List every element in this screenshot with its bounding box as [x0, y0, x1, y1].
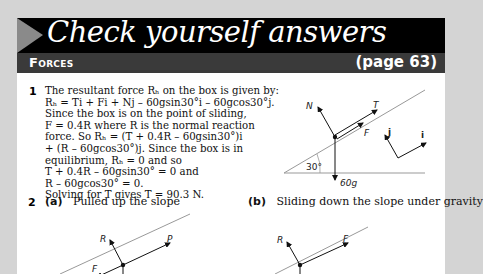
part-a-text: Pulled up the slope: [73, 195, 180, 208]
part-b-heading: (b) Sliding down the slope under gravity: [248, 195, 483, 208]
q2b-force-diagram: R F: [230, 210, 463, 274]
part-a-heading: (a) Pulled up the slope: [45, 195, 180, 208]
q1-line: equilibrium, Rₕ = 0 and so: [45, 155, 279, 167]
part-b-text: Sliding down the slope under gravity: [276, 195, 482, 208]
label-j: j: [387, 127, 391, 137]
label-R: R: [277, 235, 283, 245]
question-number-1: 1: [29, 85, 37, 98]
part-b-label: (b): [248, 195, 266, 208]
q2a-force-diagram: R P F: [0, 210, 230, 274]
label-T: T: [373, 100, 380, 110]
part-a-label: (a): [45, 195, 62, 208]
section-title: Forces: [29, 55, 74, 70]
label-F: F: [92, 264, 98, 274]
question-1-text: The resultant force Rₕ on the box is giv…: [45, 85, 279, 201]
label-F: F: [364, 128, 370, 138]
label-i: i: [421, 130, 424, 140]
q1-line: The resultant force Rₕ on the box is giv…: [45, 85, 279, 97]
banner-wedge-icon: [17, 18, 43, 53]
q1-line: Since the box is on the point of sliding…: [45, 108, 279, 120]
q1-line: force. So Rₕ = (T + 0.4R – 60gsin30°)i: [45, 131, 279, 143]
q1-line: Rₕ = Ti + Fi + Nj – 60gsin30°i – 60gcos3…: [45, 97, 279, 109]
label-F: F: [343, 234, 349, 244]
page-title: Check yourself answers: [47, 18, 386, 49]
q1-line: T + 0.4R – 60gsin30° = 0 and: [45, 166, 279, 178]
question-number-2: 2: [28, 196, 36, 209]
page-reference: (page 63): [355, 53, 437, 71]
label-P: P: [167, 234, 173, 244]
label-angle: 30°: [306, 162, 322, 172]
label-N: N: [306, 101, 313, 111]
section-header: Forces (page 63): [17, 53, 445, 73]
q1-line: F = 0.4R where R is the normal reaction: [45, 120, 279, 132]
q1-force-diagram: N T F 60g 30° j i: [260, 80, 463, 200]
q1-line: + (R – 60gcos30°)j. Since the box is in: [45, 143, 279, 155]
title-banner: Check yourself answers: [17, 18, 445, 53]
q1-line: R – 60gcos30° = 0.: [45, 178, 279, 190]
label-60g: 60g: [340, 178, 357, 188]
label-R: R: [100, 234, 106, 244]
